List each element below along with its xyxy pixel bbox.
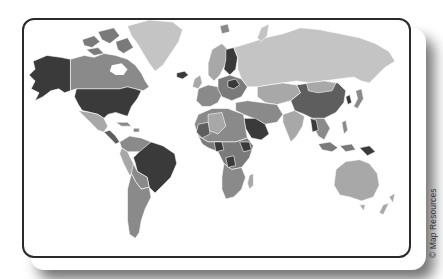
region-philippines[interactable] [342,120,348,134]
region-mongolia[interactable] [306,81,336,93]
region-united-kingdom[interactable] [192,75,202,89]
region-central-america[interactable] [104,130,120,144]
region-caribbean[interactable] [116,122,140,132]
region-australia[interactable] [334,160,379,201]
region-norway-sweden[interactable] [208,44,228,81]
map-frame [22,18,411,258]
region-greenland[interactable] [128,20,183,71]
region-papua-new-guinea[interactable] [360,146,376,156]
region-canada[interactable] [70,53,149,90]
region-congo[interactable] [226,156,236,168]
region-iceland[interactable] [177,71,189,79]
region-svalbard[interactable] [220,24,230,34]
region-southern-africa[interactable] [222,164,246,199]
region-alaska[interactable] [29,55,70,100]
world-map[interactable] [24,20,409,256]
region-new-zealand[interactable] [379,193,395,215]
region-tasmania[interactable] [360,205,366,211]
region-japan[interactable] [354,89,364,109]
region-korea[interactable] [346,95,352,105]
region-madagascar[interactable] [247,173,253,189]
region-arctic-islands[interactable] [82,28,133,56]
region-indonesia[interactable] [318,142,355,152]
map-credit: © Map Resources [428,188,438,258]
region-india[interactable] [283,110,305,141]
region-nigeria[interactable] [214,142,224,152]
